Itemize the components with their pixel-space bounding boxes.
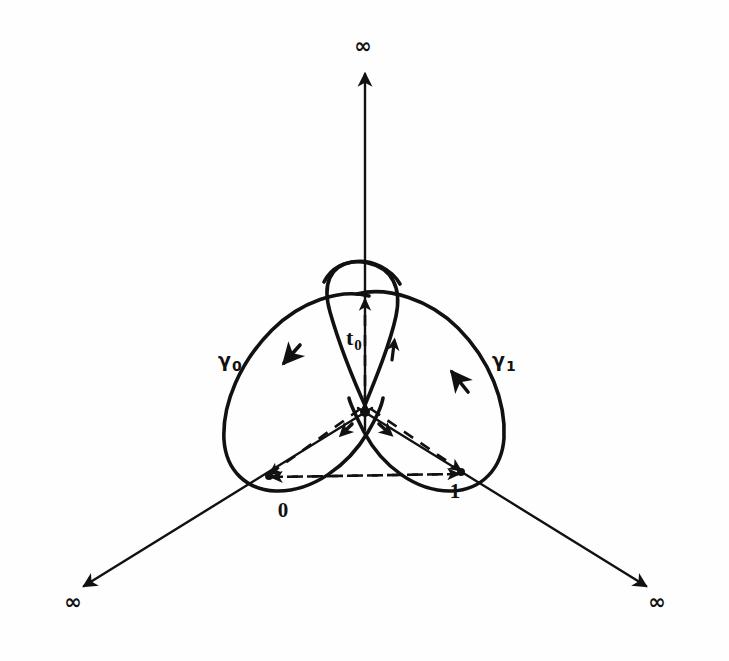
- axis-down-right: [358, 408, 646, 586]
- label-point-one: 1: [450, 481, 461, 502]
- gamma-one-index: 1: [506, 358, 516, 374]
- basepoint-letter: t: [346, 325, 353, 350]
- label-gamma-zero: γ0: [218, 351, 242, 373]
- label-gamma-one: γ1: [492, 351, 516, 373]
- diagram-canvas: [0, 0, 729, 661]
- figure-root: ∞ ∞ ∞ 0 1 γ0 γ1 t0: [0, 0, 729, 661]
- basepoint-dot: [360, 407, 370, 417]
- inner-orientation-ticks: [392, 344, 394, 360]
- inner-tick-up: [392, 344, 394, 360]
- dashed-to-zero: [270, 409, 360, 474]
- gamma-1-arrowhead-upper: [452, 372, 468, 392]
- label-infinity-top: ∞: [354, 36, 372, 57]
- basepoint-index: 0: [354, 337, 362, 353]
- puncture-dot-zero: [265, 472, 273, 480]
- axis-down-left: [84, 408, 372, 586]
- puncture-dot-one: [457, 468, 465, 476]
- label-infinity-bottom-left: ∞: [64, 592, 82, 613]
- axes-group: [84, 74, 646, 586]
- label-infinity-bottom-right: ∞: [648, 592, 666, 613]
- gamma-0-arrowhead-upper: [284, 345, 300, 363]
- label-point-zero: 0: [278, 500, 289, 521]
- gamma-zero-letter: γ: [218, 349, 231, 371]
- gamma-one-letter: γ: [492, 349, 505, 371]
- label-basepoint: t0: [346, 327, 362, 353]
- gamma-zero-index: 0: [232, 358, 242, 374]
- loop-gamma-0: [224, 261, 400, 491]
